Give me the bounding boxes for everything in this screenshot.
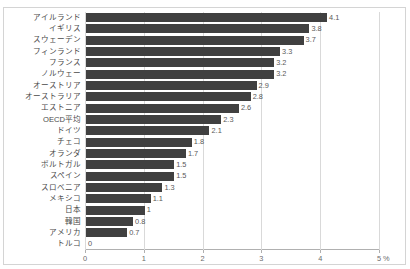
value-label: 2.1	[211, 127, 221, 134]
value-label: 1.3	[164, 184, 174, 191]
bar-row: メキシコ1.1	[85, 193, 379, 204]
value-label: 2.8	[253, 93, 263, 100]
value-label: 3.7	[306, 37, 316, 44]
value-label: 1	[147, 207, 151, 214]
category-label: メキシコ	[49, 195, 81, 203]
bar	[86, 126, 209, 135]
bar-row: チェコ1.8	[85, 137, 379, 148]
bar-row: イギリス3.8	[85, 23, 379, 34]
bar-row: スロベニア1.3	[85, 182, 379, 193]
bar	[86, 58, 274, 67]
category-label: エストニア	[41, 105, 81, 113]
bar	[86, 194, 151, 203]
bar	[86, 217, 133, 226]
bar	[86, 228, 127, 237]
category-label: ポルトガル	[41, 161, 81, 169]
value-label: 3.2	[276, 71, 286, 78]
plot-area: アイルランド4.1イギリス3.8スウェーデン3.7フィンランド3.3フランス3.…	[85, 12, 379, 250]
bar	[86, 70, 274, 79]
category-label: 韓国	[65, 218, 81, 226]
value-label: 2.9	[259, 82, 269, 89]
tick-mark-5	[379, 250, 380, 253]
category-label: オランダ	[49, 150, 81, 158]
x-axis-unit-label: %	[383, 255, 390, 262]
tick-label-0: 0	[83, 255, 87, 262]
category-label: トルコ	[57, 241, 81, 249]
bar-row: スペイン1.5	[85, 171, 379, 182]
tick-label-2: 2	[201, 255, 205, 262]
value-label: 3.2	[276, 59, 286, 66]
bar-row: スウェーデン3.7	[85, 35, 379, 46]
tick-label-5: 5	[377, 255, 381, 262]
bar-row: トルコ0	[85, 239, 379, 250]
bar	[86, 36, 304, 45]
value-label: 0.7	[129, 229, 139, 236]
bar	[86, 92, 251, 101]
category-label: アイルランド	[33, 14, 81, 22]
bar-row: 日本1	[85, 205, 379, 216]
category-label: オーストリア	[33, 82, 81, 90]
value-label: 1.1	[153, 195, 163, 202]
value-label: 1.5	[176, 161, 186, 168]
tick-mark-4	[320, 250, 321, 253]
bar-row: ドイツ2.1	[85, 125, 379, 136]
category-label: オーストラリア	[25, 93, 81, 101]
category-label: イギリス	[49, 25, 81, 33]
bar-row: オランダ1.7	[85, 148, 379, 159]
bar	[86, 81, 257, 90]
category-label: スペイン	[50, 173, 81, 181]
category-label: ドイツ	[57, 127, 81, 135]
tick-label-1: 1	[142, 255, 146, 262]
bar	[86, 115, 221, 124]
bar	[86, 138, 192, 147]
value-label: 4.1	[329, 14, 339, 21]
bar	[86, 13, 327, 22]
value-label: 3.8	[311, 25, 321, 32]
x-axis: 012345 %	[85, 252, 379, 268]
value-label: 0.8	[135, 218, 145, 225]
bar-row: ノルウェー3.2	[85, 69, 379, 80]
value-label: 2.3	[223, 116, 233, 123]
bar	[86, 149, 186, 158]
category-label: チェコ	[57, 139, 81, 147]
bar-row: フランス3.2	[85, 57, 379, 68]
bar-rows: アイルランド4.1イギリス3.8スウェーデン3.7フィンランド3.3フランス3.…	[85, 12, 379, 250]
bar	[86, 47, 280, 56]
bar	[86, 206, 145, 215]
category-label: フィンランド	[33, 48, 81, 56]
category-label: アメリカ	[49, 229, 81, 237]
tick-label-4: 4	[318, 255, 322, 262]
bar-row: アメリカ0.7	[85, 227, 379, 238]
tick-label-3: 3	[259, 255, 263, 262]
category-label: OECD平均	[43, 116, 81, 124]
bar	[86, 160, 174, 169]
category-label: スウェーデン	[33, 37, 81, 45]
gridline-5	[379, 12, 380, 250]
bar	[86, 104, 239, 113]
chart-frame: アイルランド4.1イギリス3.8スウェーデン3.7フィンランド3.3フランス3.…	[3, 7, 406, 265]
value-label: 2.6	[241, 105, 251, 112]
bar-row: フィンランド3.3	[85, 46, 379, 57]
category-label: ノルウェー	[41, 71, 81, 79]
bar-row: アイルランド4.1	[85, 12, 379, 23]
bar	[86, 183, 162, 192]
bar	[86, 172, 174, 181]
category-label: フランス	[49, 59, 81, 67]
tick-mark-2	[203, 250, 204, 253]
bar-row: ポルトガル1.5	[85, 159, 379, 170]
bar-row: エストニア2.6	[85, 103, 379, 114]
tick-mark-3	[261, 250, 262, 253]
bar	[86, 24, 309, 33]
tick-mark-0	[85, 250, 86, 253]
category-label: スロベニア	[41, 184, 81, 192]
tick-mark-1	[144, 250, 145, 253]
value-label: 1.8	[194, 139, 204, 146]
value-label: 3.3	[282, 48, 292, 55]
value-label: 0	[88, 241, 92, 248]
bar-row: 韓国0.8	[85, 216, 379, 227]
bar-row: オーストリア2.9	[85, 80, 379, 91]
value-label: 1.5	[176, 173, 186, 180]
value-label: 1.7	[188, 150, 198, 157]
bar-row: OECD平均2.3	[85, 114, 379, 125]
category-label: 日本	[65, 207, 81, 215]
